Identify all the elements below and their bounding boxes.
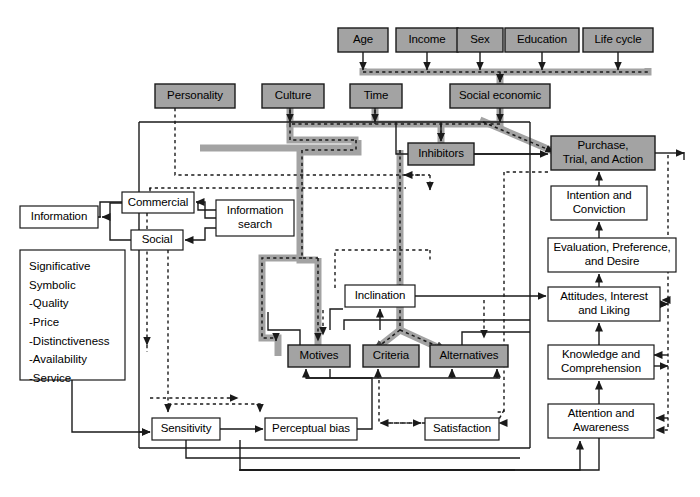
node-knowledge — [548, 345, 654, 379]
d-purchase-satisfaction — [497, 172, 504, 412]
hl-y-left — [372, 300, 400, 352]
hld-trunk-b — [302, 150, 318, 258]
e-alternatives-right — [462, 332, 530, 345]
e-comm-down — [110, 203, 122, 217]
node-intention — [551, 186, 647, 220]
diagram-canvas: AgeIncomeSexEducationLife cyclePersonali… — [0, 0, 700, 497]
node-alternatives — [430, 345, 508, 367]
node-information — [20, 206, 98, 228]
node-motives — [288, 345, 350, 367]
node-attention — [548, 404, 654, 438]
node-social — [131, 230, 183, 250]
node-culture — [262, 84, 324, 108]
hl-left-loop — [262, 258, 300, 356]
node-criteria — [363, 345, 419, 367]
node-attitudes — [548, 287, 660, 321]
diagram-svg — [0, 0, 700, 497]
node-income — [396, 28, 458, 52]
e-bottom-return-2 — [240, 440, 414, 470]
e-mid-bus — [344, 320, 530, 330]
node-purchase — [551, 136, 655, 170]
e-attention-bottom-return — [412, 438, 599, 470]
hl-trunk-b — [300, 150, 318, 260]
node-lifecycle — [583, 28, 653, 52]
e-sensitivity-bottom — [186, 440, 520, 458]
node-education — [505, 28, 579, 52]
e-bottom-to-attention — [239, 441, 580, 470]
node-significative — [20, 250, 125, 380]
e-motives-inclination — [330, 309, 343, 330]
e-infosearch-comm-a — [198, 202, 216, 210]
node-inhibitors — [408, 143, 474, 165]
node-commercial — [122, 192, 194, 213]
node-inclination — [345, 285, 415, 307]
node-infosearch — [216, 200, 294, 236]
node-age — [338, 28, 388, 52]
node-satisfaction — [425, 418, 499, 440]
d-to-perceptual — [168, 404, 260, 412]
node-sex — [457, 28, 503, 52]
hl-culture-route — [200, 124, 355, 148]
e-infosearch-social — [185, 228, 216, 240]
node-perceptual — [265, 418, 357, 440]
node-personality — [155, 84, 235, 108]
e-commercial-info-a — [100, 202, 122, 217]
node-sensitivity — [152, 418, 220, 440]
node-time — [350, 84, 402, 108]
node-evaluation — [548, 238, 676, 272]
d-criteria-satisfaction — [379, 380, 421, 423]
node-socialecon — [450, 84, 550, 108]
d-upper-inclination — [335, 250, 430, 288]
e-social-up — [110, 217, 131, 240]
